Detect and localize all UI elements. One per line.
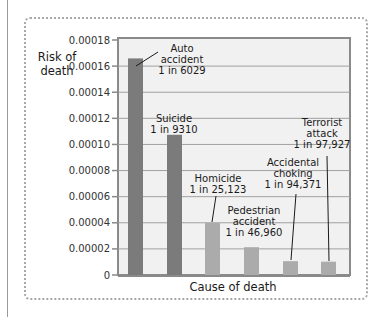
bar-annotation-text: 1 in 46,960 xyxy=(226,227,283,238)
bar-annotation-text: Suicide xyxy=(156,113,192,124)
bar-accidental-choking xyxy=(283,261,298,275)
y-tick-label: 0.00012 xyxy=(69,113,110,124)
bar-chart: 00.000020.000040.000060.000080.000100.00… xyxy=(0,0,391,317)
bar-annotation-text: 1 in 9310 xyxy=(150,124,197,135)
y-tick-label: 0.00008 xyxy=(69,165,110,176)
y-tick-label: 0.00002 xyxy=(69,243,110,254)
bar-suicide xyxy=(167,135,182,275)
bar-annotation-text: Terrorist xyxy=(301,117,343,128)
bar-annotation-text: Homicide xyxy=(195,173,242,184)
bar-annotation-text: attack xyxy=(306,128,338,139)
bar-annotation-text: 1 in 25,123 xyxy=(190,184,247,195)
y-axis-label: Risk of xyxy=(38,50,78,64)
bar-annotation-text: 1 in 97,927 xyxy=(294,139,351,150)
y-tick-label: 0.00006 xyxy=(69,191,110,202)
bar-terrorist-attack xyxy=(321,262,336,275)
y-axis-label: death xyxy=(40,64,73,78)
bar-auto-accident xyxy=(128,58,143,275)
bar-annotation-text: accident xyxy=(233,216,276,227)
bar-annotation-text: Auto xyxy=(170,43,193,54)
bar-homicide xyxy=(205,223,220,275)
bar-annotation-text: choking xyxy=(273,168,312,179)
y-tick-label: 0.00018 xyxy=(69,35,110,46)
bar-annotation-text: 1 in 94,371 xyxy=(265,179,322,190)
y-tick-label: 0 xyxy=(104,270,110,281)
x-axis-label: Cause of death xyxy=(189,280,276,294)
bar-annotation-text: 1 in 6029 xyxy=(158,65,205,76)
bar-annotation-text: accident xyxy=(161,54,204,65)
bar-pedestrian-accident xyxy=(244,247,259,275)
bar-annotation-text: Accidental xyxy=(267,157,319,168)
y-tick-label: 0.00014 xyxy=(69,87,110,98)
y-tick-label: 0.00010 xyxy=(69,139,110,150)
y-tick-label: 0.00004 xyxy=(69,217,110,228)
bar-annotation-text: Pedestrian xyxy=(228,205,281,216)
